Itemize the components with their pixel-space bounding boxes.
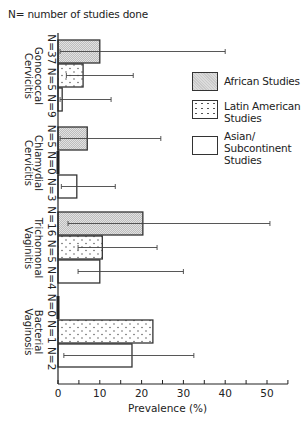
n-label-2: N=16 N=5 N=4 (46, 206, 58, 290)
category-label-2-line-1: Vaginitis (23, 227, 34, 269)
category-label-3-line-1: Vaginosis (23, 309, 34, 356)
bar-latin-3 (58, 320, 153, 343)
african-swatch-icon (192, 72, 218, 91)
n-label-3: N=0 N=1 N=2 (46, 294, 58, 371)
legend-item-asian: Asian/ Subcontinent Studies (192, 136, 291, 166)
legend-item-african: African Studies (192, 72, 300, 91)
error-bar-asian-0 (60, 97, 111, 102)
legend-label-african: African Studies (224, 72, 300, 87)
category-label-0-line-1: Cervicitis (23, 53, 34, 99)
bar-chart: 01020304050 N=37 N=5 N=9GonococcalCervic… (0, 0, 303, 426)
x-tick-label: 0 (55, 387, 62, 399)
legend-item-latin: Latin American Studies (192, 100, 300, 124)
legend-label-asian: Asian/ Subcontinent Studies (224, 130, 291, 166)
x-tick-label: 30 (177, 387, 190, 399)
x-tick-label: 20 (135, 387, 148, 399)
x-tick-label: 40 (219, 387, 232, 399)
legend-label-latin: Latin American Studies (224, 100, 300, 124)
x-tick-label: 10 (93, 387, 106, 399)
category-label-1-line-1: Cervicitis (23, 140, 34, 186)
category-labels: N=37 N=5 N=9GonococcalCervicitisN=5 N=0 … (23, 34, 58, 370)
x-axis-label: Prevalence (%) (128, 402, 207, 414)
latin-swatch-icon (192, 100, 218, 119)
n-label-1: N=5 N=0 N=3 (46, 125, 58, 202)
x-tick-label: 50 (260, 387, 273, 399)
asian-swatch-icon (192, 136, 218, 155)
n-label-0: N=37 N=5 N=9 (46, 34, 58, 117)
